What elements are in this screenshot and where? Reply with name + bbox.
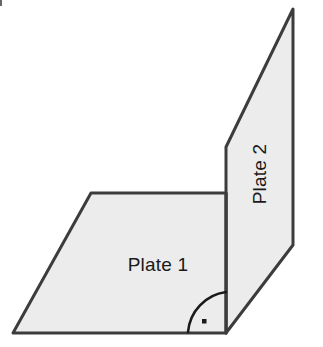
plate-2-label: Plate 2: [249, 144, 270, 205]
right-angle-dot-icon: [202, 319, 207, 324]
plates-diagram: Plate 1 Plate 2: [0, 0, 323, 347]
figure-canvas: Plate 1 Plate 2: [0, 0, 323, 347]
plate-1-label: Plate 1: [128, 254, 189, 275]
